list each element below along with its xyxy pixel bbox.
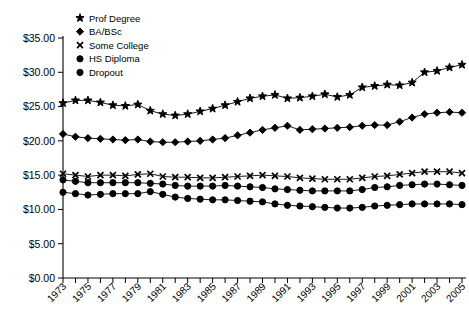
series-ba-bsc xyxy=(59,108,465,145)
data-point-marker xyxy=(85,180,91,186)
data-point-marker xyxy=(110,180,116,186)
data-point-marker xyxy=(109,136,116,143)
data-point-marker xyxy=(446,182,452,188)
data-point-marker xyxy=(71,96,79,104)
data-point-marker xyxy=(122,180,128,186)
data-point-marker xyxy=(185,195,191,201)
data-point-marker xyxy=(197,137,204,144)
data-point-marker xyxy=(284,202,290,208)
series-dropout xyxy=(60,189,465,212)
data-point-marker xyxy=(77,42,83,48)
data-point-marker xyxy=(96,98,104,106)
data-point-marker xyxy=(147,138,154,145)
x-axis-tick-label: 1981 xyxy=(145,280,169,304)
data-point-marker xyxy=(421,201,427,207)
data-point-marker xyxy=(458,60,466,68)
series-some-college xyxy=(60,169,465,183)
data-point-marker xyxy=(271,91,279,99)
legend-item-some-college: Some College xyxy=(77,40,149,51)
data-point-marker xyxy=(122,191,128,197)
data-point-marker xyxy=(159,110,167,118)
x-axis-tick-label: 2001 xyxy=(394,280,418,304)
data-point-marker xyxy=(172,139,179,146)
y-axis-tick-label: $20.00 xyxy=(23,135,55,147)
data-point-marker xyxy=(59,99,67,107)
data-point-marker xyxy=(334,205,340,211)
data-point-marker xyxy=(358,83,366,91)
data-point-marker xyxy=(134,100,142,108)
data-point-marker xyxy=(322,204,328,210)
y-axis-tick-label: $0.00 xyxy=(29,272,55,284)
x-axis-tick-label: 1995 xyxy=(319,280,343,304)
series-hs-diploma xyxy=(60,177,465,194)
y-axis-tick-label: $30.00 xyxy=(23,66,55,78)
data-point-marker xyxy=(309,204,315,210)
data-point-marker xyxy=(296,93,304,101)
x-axis-tick-label: 1993 xyxy=(294,280,318,304)
data-point-marker xyxy=(421,181,427,187)
data-point-marker xyxy=(359,186,365,192)
data-point-marker xyxy=(110,191,116,197)
data-point-marker xyxy=(308,92,316,100)
legend-item-label: Dropout xyxy=(89,67,123,78)
data-point-marker xyxy=(271,124,278,131)
data-point-marker xyxy=(76,28,83,35)
data-point-marker xyxy=(458,109,465,116)
data-point-marker xyxy=(309,188,315,194)
x-axis-tick-label: 2005 xyxy=(444,280,468,304)
data-point-marker xyxy=(259,199,265,205)
data-point-marker xyxy=(346,91,354,99)
data-point-marker xyxy=(109,101,117,109)
x-axis-tick-label: 1997 xyxy=(344,280,368,304)
x-axis-tick-label: 1979 xyxy=(120,280,144,304)
y-axis-tick-label: $10.00 xyxy=(23,203,55,215)
data-point-marker xyxy=(259,126,266,133)
y-axis-tick-label: $25.00 xyxy=(23,100,55,112)
data-point-marker xyxy=(383,80,391,88)
data-point-marker xyxy=(334,124,341,131)
data-point-marker xyxy=(372,184,378,190)
data-point-marker xyxy=(209,104,217,112)
data-point-marker xyxy=(247,198,253,204)
data-point-marker xyxy=(309,126,316,133)
data-point-marker xyxy=(72,178,78,184)
data-point-marker xyxy=(185,183,191,189)
data-point-marker xyxy=(234,132,241,139)
x-axis-tick-label: 1977 xyxy=(95,280,119,304)
data-point-marker xyxy=(172,182,178,188)
data-point-marker xyxy=(359,204,365,210)
data-point-marker xyxy=(147,180,153,186)
data-point-marker xyxy=(283,94,291,102)
data-point-marker xyxy=(147,189,153,195)
data-point-marker xyxy=(272,186,278,192)
data-point-marker xyxy=(135,191,141,197)
data-point-marker xyxy=(459,202,465,208)
data-point-marker xyxy=(347,205,353,211)
data-point-marker xyxy=(234,183,240,189)
data-point-marker xyxy=(434,201,440,207)
data-point-marker xyxy=(409,182,415,188)
data-point-marker xyxy=(159,139,166,146)
data-point-marker xyxy=(210,197,216,203)
data-point-marker xyxy=(347,188,353,194)
legend-item-prof-degree: Prof Degree xyxy=(76,13,140,24)
data-point-marker xyxy=(297,203,303,209)
data-point-marker xyxy=(160,181,166,187)
data-point-marker xyxy=(272,201,278,207)
data-point-marker xyxy=(384,121,391,128)
legend-item-label: BA/BSc xyxy=(89,26,122,37)
data-point-marker xyxy=(210,183,216,189)
data-point-marker xyxy=(221,101,229,109)
data-point-marker xyxy=(297,187,303,193)
data-point-marker xyxy=(234,197,240,203)
data-point-marker xyxy=(77,56,83,62)
legend-item-dropout: Dropout xyxy=(77,67,123,78)
data-point-marker xyxy=(258,92,266,100)
data-point-marker xyxy=(60,177,66,183)
data-point-marker xyxy=(97,191,103,197)
data-point-marker xyxy=(60,189,66,195)
data-point-marker xyxy=(221,135,228,142)
data-point-marker xyxy=(433,67,441,75)
data-point-marker xyxy=(384,202,390,208)
data-point-marker xyxy=(333,93,341,101)
